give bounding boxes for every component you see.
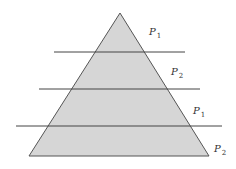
diagram-canvas: P1P2P1P2	[0, 0, 236, 169]
region-label-3: P1	[192, 105, 205, 119]
region-label-2: P2	[170, 66, 183, 80]
region-label-4: P2	[213, 143, 226, 157]
pyramid-diagram: P1P2P1P2	[0, 0, 236, 169]
region-label-1: P1	[148, 26, 161, 40]
pyramid-triangle	[29, 13, 209, 156]
